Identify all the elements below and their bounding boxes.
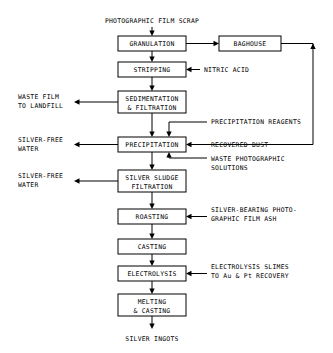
arrowhead-sedimentation-precipitation xyxy=(149,132,154,138)
process-box-precipitation-label: PRECIPITATION xyxy=(125,141,178,149)
arrowhead-baghouse-recycle xyxy=(186,142,192,147)
arrowhead-waste-film xyxy=(74,99,80,104)
flowchart-canvas: GRANULATION BAGHOUSE STRIPPING SEDIMENTA… xyxy=(0,0,333,353)
label-waste-film-line2: TO LANDFILL xyxy=(18,102,63,110)
arrowhead-waste-photographic xyxy=(166,152,171,158)
arrowhead-granulation-stripping xyxy=(149,57,154,63)
arrowhead-sludge-roasting xyxy=(149,204,154,210)
process-box-casting[interactable]: CASTING xyxy=(118,239,186,254)
connector-lines xyxy=(74,27,316,329)
arrowhead-electrolysis-melting xyxy=(149,289,154,295)
arrowhead-feed-granulation xyxy=(149,31,154,37)
input-stream-labels: NITRIC ACID PRECIPITATION REAGENTS RECOV… xyxy=(204,66,301,280)
process-box-baghouse[interactable]: BAGHOUSE xyxy=(219,36,281,51)
arrowhead-silver-free-water-filtration xyxy=(74,178,80,183)
arrowhead-stripping-sedimentation xyxy=(149,86,154,92)
label-silver-free-water-precip-line1: SILVER-FREE xyxy=(18,136,63,144)
output-stream-labels: WASTE FILM TO LANDFILL SILVER-FREE WATER… xyxy=(18,93,63,189)
flowchart-diagram: GRANULATION BAGHOUSE STRIPPING SEDIMENTA… xyxy=(0,0,333,353)
arrowhead-recycle-turn xyxy=(310,44,315,50)
arrowhead-nitric-acid xyxy=(186,67,192,72)
arrowhead-granulation-baghouse xyxy=(214,41,220,46)
diagram-output-title: SILVER INGOTS xyxy=(125,335,178,343)
arrowhead-electrolysis-slimes xyxy=(186,271,192,276)
connector-precipitation-reagents xyxy=(169,122,207,133)
label-silver-free-water-filtration-line1: SILVER-FREE xyxy=(18,172,63,180)
process-box-melting-line2: & CASTING xyxy=(134,307,171,315)
process-box-roasting[interactable]: ROASTING xyxy=(118,209,186,224)
label-electrolysis-slimes-line2: TO Au & Pt RECOVERY xyxy=(211,272,289,280)
label-recovered-dust: RECOVERED DUST xyxy=(211,141,268,149)
process-box-stripping-label: STRIPPING xyxy=(134,66,171,74)
process-box-precipitation[interactable]: PRECIPITATION xyxy=(118,137,186,152)
process-box-silver-sludge-filtration[interactable]: SILVER SLUDGE FILTRATION xyxy=(118,170,186,192)
process-box-melting-casting[interactable]: MELTING & CASTING xyxy=(118,294,186,316)
arrowhead-precipitation-reagents xyxy=(166,132,171,138)
connector-waste-photographic xyxy=(169,156,207,158)
process-box-sedimentation-filtration[interactable]: SEDIMENTATION & FILTRATION xyxy=(118,91,186,113)
process-box-granulation[interactable]: GRANULATION xyxy=(118,36,186,51)
label-silver-bearing-film-ash-line1: SILVER-BEARING PHOTO- xyxy=(211,206,297,214)
process-box-stripping[interactable]: STRIPPING xyxy=(118,62,186,77)
label-silver-free-water-precip-line2: WATER xyxy=(18,145,39,153)
arrowhead-precipitation-sludge xyxy=(149,165,154,171)
label-silver-bearing-film-ash-line2: GRAPHIC FILM ASH xyxy=(211,215,277,223)
arrowhead-silver-free-water-precip xyxy=(74,142,80,147)
process-box-sedimentation-line1: SEDIMENTATION xyxy=(125,95,178,103)
process-box-roasting-label: ROASTING xyxy=(136,213,169,221)
process-box-casting-label: CASTING xyxy=(138,243,167,251)
label-waste-photographic-solutions-line2: SOLUTIONS xyxy=(211,164,248,172)
arrowhead-casting-electrolysis xyxy=(149,261,154,267)
label-silver-free-water-filtration-line2: WATER xyxy=(18,181,39,189)
process-box-baghouse-label: BAGHOUSE xyxy=(234,40,267,48)
diagram-input-title: PHOTOGRAPHIC FILM SCRAP xyxy=(105,17,199,25)
process-box-melting-line1: MELTING xyxy=(138,298,167,306)
process-box-electrolysis[interactable]: ELECTROLYSIS xyxy=(118,266,186,281)
connector-baghouse-recycle xyxy=(190,44,313,145)
arrowhead-film-ash xyxy=(186,214,192,219)
process-box-sedimentation-line2: & FILTRATION xyxy=(127,104,176,112)
arrowhead-roasting-casting xyxy=(149,234,154,240)
label-electrolysis-slimes-line1: ELECTROLYSIS SLIMES xyxy=(211,263,289,271)
label-waste-film-line1: WASTE FILM xyxy=(18,93,59,101)
label-waste-photographic-solutions-line1: WASTE PHOTOGRAPHIC xyxy=(211,155,285,163)
process-box-electrolysis-label: ELECTROLYSIS xyxy=(127,270,176,278)
process-box-silver-sludge-line1: SILVER SLUDGE xyxy=(125,174,178,182)
process-box-granulation-label: GRANULATION xyxy=(129,40,174,48)
process-box-silver-sludge-line2: FILTRATION xyxy=(132,183,173,191)
arrowhead-melting-ingots xyxy=(149,324,154,330)
label-nitric-acid: NITRIC ACID xyxy=(204,66,249,74)
label-precipitation-reagents: PRECIPITATION REAGENTS xyxy=(211,118,301,126)
